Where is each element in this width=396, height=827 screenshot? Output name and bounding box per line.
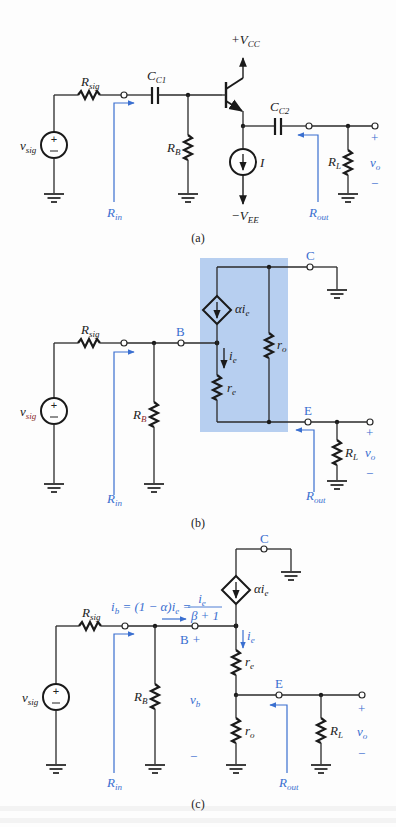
current-I-label: I — [259, 155, 265, 170]
svg-text:Rsig: Rsig — [81, 605, 101, 622]
svg-text:−: − — [366, 466, 373, 481]
bjt-transistor — [222, 58, 243, 126]
svg-text:+: + — [366, 425, 373, 440]
svg-text:C: C — [260, 531, 269, 546]
svg-text:−: − — [358, 746, 365, 761]
svg-text:αie: αie — [254, 581, 268, 598]
ground-icon — [44, 194, 64, 202]
vo-label: vo — [370, 155, 381, 172]
cc2-label: CC2 — [270, 99, 290, 116]
rout-label: Rout — [308, 205, 329, 222]
current-source-I — [230, 149, 256, 175]
panel-c: vsig Rsig RB B+ ib = (1 − α)ie = ie β + … — [22, 531, 368, 811]
vsig-source — [41, 95, 67, 202]
caption-b: (b) — [191, 516, 205, 530]
ib-equation: ib = (1 − α)ie = — [111, 599, 191, 616]
svg-text:+: + — [371, 130, 378, 145]
svg-text:vo: vo — [365, 445, 376, 462]
svg-text:Rin: Rin — [106, 775, 122, 792]
rsig-resistor — [78, 91, 100, 99]
input-terminal — [121, 92, 127, 98]
cc2-capacitor — [275, 118, 281, 135]
svg-text:RL: RL — [329, 723, 343, 740]
svg-text:vb: vb — [190, 692, 201, 709]
svg-text:ie: ie — [198, 591, 206, 608]
caption-c: (c) — [191, 797, 204, 811]
svg-text:ie: ie — [247, 628, 255, 645]
dependent-current-source — [222, 576, 250, 604]
transistor-model-highlight — [200, 258, 288, 432]
svg-text:β + 1: β + 1 — [190, 608, 219, 623]
node-b-label: B — [176, 324, 185, 339]
svg-text:vsig: vsig — [20, 404, 37, 421]
panel-b: vsig Rsig RB B αie ie re ro — [20, 248, 376, 530]
svg-text:RL: RL — [344, 445, 358, 462]
panel-a: vsig Rsig CC1 RB +VCC — [20, 32, 381, 245]
cc1-capacitor — [152, 87, 158, 104]
svg-text:+: + — [358, 701, 365, 716]
svg-text:vsig: vsig — [22, 690, 39, 707]
vcc-label: +VCC — [231, 32, 261, 49]
node-b-label: B+ — [180, 632, 200, 647]
rl-resistor — [344, 150, 352, 175]
output-terminal — [372, 123, 378, 129]
svg-text:Rin: Rin — [106, 491, 122, 508]
svg-text:Rsig: Rsig — [80, 322, 100, 339]
svg-text:Rout: Rout — [278, 775, 299, 792]
cc1-label: CC1 — [147, 68, 166, 85]
rin-arrow — [114, 103, 134, 202]
svg-text:RB: RB — [133, 689, 148, 706]
rin-label: Rin — [106, 205, 122, 222]
caption-a: (a) — [191, 231, 204, 245]
node-e-label: E — [304, 403, 312, 418]
vsig-label: vsig — [20, 138, 37, 155]
svg-text:−: − — [371, 176, 378, 191]
rl-label: RL — [327, 154, 341, 171]
svg-text:−: − — [190, 749, 197, 764]
svg-text:RB: RB — [132, 407, 147, 424]
circuit-figure: + vsig Rsig CC1 — [0, 0, 396, 827]
rb-label: RB — [166, 140, 181, 157]
rout-arrow — [298, 135, 318, 202]
vee-label: −VEE — [231, 208, 259, 225]
node-c-label: C — [306, 248, 315, 263]
svg-text:Rout: Rout — [305, 488, 326, 505]
rsig-label: Rsig — [80, 74, 100, 91]
svg-text:vo: vo — [357, 724, 368, 741]
svg-text:E: E — [275, 676, 283, 691]
rb-resistor — [184, 135, 192, 160]
svg-text:re: re — [245, 654, 254, 671]
svg-text:ro: ro — [245, 723, 255, 740]
